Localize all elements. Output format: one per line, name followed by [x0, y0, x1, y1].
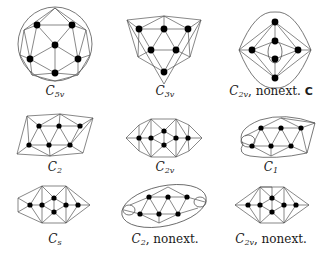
graph-vertex — [185, 26, 192, 33]
graph-edge — [60, 114, 93, 118]
graph-vertex — [268, 143, 273, 148]
graph-vertex — [52, 70, 59, 77]
graph-vertex — [298, 125, 303, 130]
graph-edge — [29, 126, 39, 145]
graph-edge — [261, 128, 271, 146]
symmetry-group-symbol: C — [235, 232, 244, 246]
graph-vertex — [136, 135, 141, 140]
graph-edge — [24, 30, 30, 59]
graph-edge — [66, 186, 78, 205]
caption-suffix: , nonext. — [254, 232, 307, 246]
graph-vertex — [52, 42, 59, 49]
graph-vertex — [67, 142, 72, 147]
graph-edge — [27, 114, 60, 116]
panel-caption: C2, nonext. — [110, 232, 220, 247]
graph-drawing — [215, 180, 327, 259]
panel-caption: C2 — [0, 160, 110, 175]
graph-vertex — [249, 47, 256, 54]
panel-c1: C1 — [215, 100, 327, 180]
graph-edge — [127, 20, 164, 84]
graph-edge — [127, 20, 138, 57]
symmetry-group-symbol: C — [48, 160, 57, 174]
graph-edge — [252, 146, 271, 156]
graph-vertex — [36, 123, 41, 128]
graph-edge — [284, 187, 309, 205]
graph-edge — [72, 25, 78, 59]
graph-vertex — [272, 56, 279, 63]
graph-edge — [30, 25, 37, 59]
graph-vertex — [272, 75, 279, 82]
graph-edge — [126, 125, 139, 138]
graph-edge — [17, 154, 50, 156]
panel-c3v: C3v — [110, 0, 220, 100]
symmetry-group-subscript: 1 — [273, 166, 278, 175]
graph-edge — [301, 128, 307, 153]
graph-edge — [130, 197, 149, 205]
graph-edge — [239, 50, 275, 78]
graph-vertex — [281, 202, 286, 207]
graph-vertex — [245, 202, 250, 207]
graph-edge — [49, 126, 59, 145]
graph-vertex — [26, 142, 31, 147]
panel-c2v-nonext: C2v, nonext. — [215, 180, 327, 259]
symmetry-group-subscript: 5v — [55, 90, 65, 99]
panel-caption: C3v — [110, 84, 220, 99]
graph-vertex — [156, 211, 161, 216]
graph-edge — [127, 16, 164, 20]
graph-vertex — [146, 194, 151, 199]
graph-edge — [37, 25, 55, 45]
panel-c2v-nonext-c: C2v, nonext. C — [215, 0, 327, 100]
graph-edge — [159, 214, 178, 223]
graph-vertex — [295, 47, 302, 54]
graph-edge — [164, 29, 176, 50]
graph-edge — [138, 29, 139, 57]
graph-vertex — [175, 211, 180, 216]
graph-vertex — [77, 123, 82, 128]
graph-vertex — [75, 202, 80, 207]
graph-edge — [138, 57, 164, 72]
panel-caption: Cs — [0, 232, 110, 247]
symmetry-group-subscript: s — [58, 238, 62, 247]
symmetry-group-symbol: C — [264, 160, 273, 174]
graph-edge — [151, 29, 164, 50]
graph-edge — [271, 146, 291, 156]
graph-vertex — [173, 47, 180, 54]
graph-edge — [126, 138, 139, 151]
graph-edge — [66, 205, 90, 223]
graph-vertex — [173, 135, 178, 140]
graph-edge — [20, 30, 24, 55]
graph-edge — [39, 126, 49, 145]
symmetry-group-symbol: C — [131, 232, 140, 246]
panel-c5v: C5v — [0, 0, 110, 100]
graph-edge — [168, 197, 178, 214]
graph-edge — [261, 118, 281, 128]
graph-vertex — [46, 142, 51, 147]
graph-vertex — [136, 26, 143, 33]
panel-caption: C2v, nonext. C — [215, 84, 327, 99]
graph-edge — [284, 205, 309, 223]
graph-edge — [189, 138, 202, 151]
graph-edge — [151, 119, 164, 131]
graph-vertex — [272, 38, 279, 45]
graph-edge — [32, 73, 55, 75]
caption-bold-suffix: C — [305, 85, 313, 98]
symmetry-group-subscript: 2v — [244, 238, 254, 247]
graph-vertex — [278, 125, 283, 130]
graph-edge — [291, 128, 301, 146]
graph-edge — [30, 45, 55, 59]
graph-vertex — [148, 47, 155, 54]
graph-edge — [55, 75, 78, 81]
symmetry-group-symbol: C — [156, 160, 165, 174]
graph-edge — [189, 125, 202, 138]
symmetry-group-symbol: C — [156, 84, 165, 98]
graph-vertex — [161, 128, 166, 133]
graph-vertex — [39, 202, 44, 207]
graph-edge — [284, 205, 296, 223]
graph-edge — [271, 128, 281, 146]
graph-edge — [190, 20, 201, 57]
symmetry-group-subscript: 2 — [57, 166, 62, 175]
graph-edge — [27, 116, 29, 145]
panel-c2: C2 — [0, 100, 110, 180]
panel-c2-nonext: C2, nonext. — [110, 180, 220, 259]
graph-edge — [86, 30, 90, 55]
